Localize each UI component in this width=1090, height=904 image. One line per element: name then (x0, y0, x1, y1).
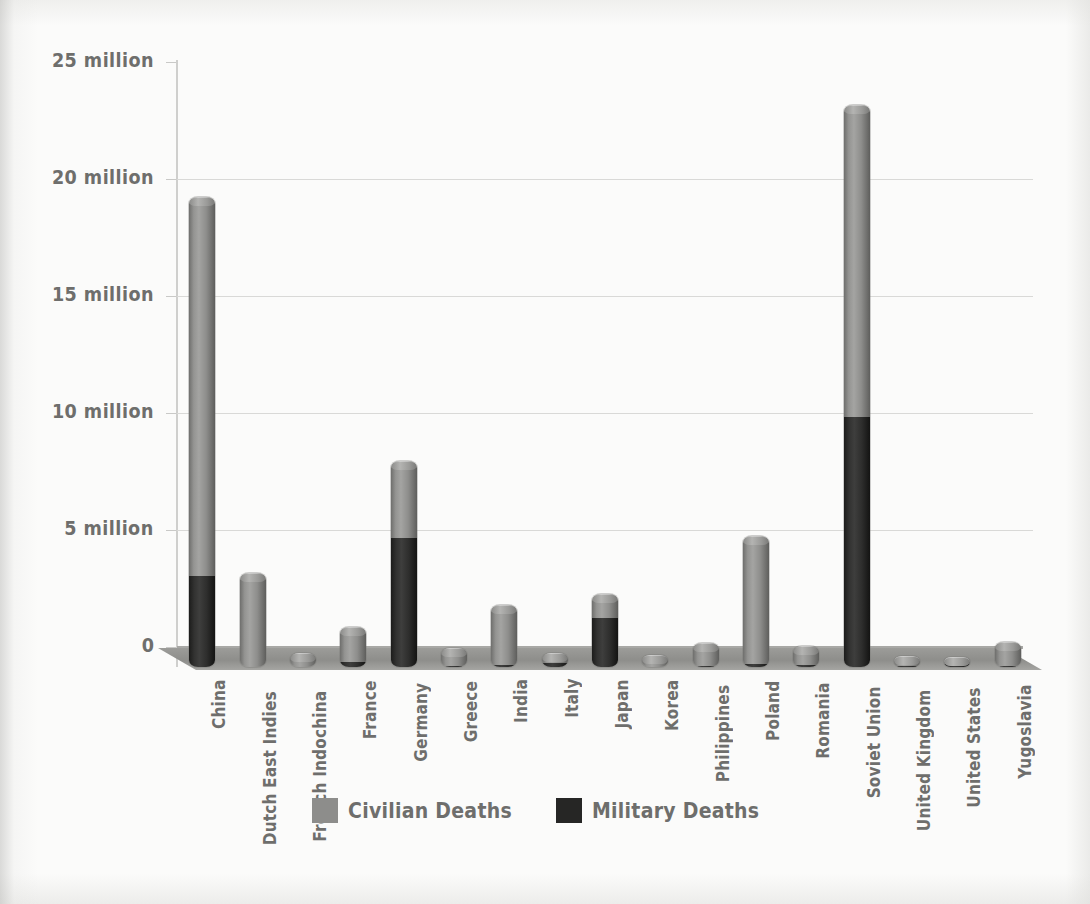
bar-top-cap (693, 643, 719, 652)
y-axis-tick-label: 0 (141, 633, 154, 657)
bar-column (542, 653, 568, 667)
bar-segment-civilian (240, 573, 266, 667)
x-axis-label-text: Greece (461, 681, 481, 742)
bar-segment-military (693, 666, 719, 667)
bar-column (240, 573, 266, 667)
legend-item[interactable]: Civilian Deaths (312, 798, 530, 823)
x-axis-label-text: Soviet Union (864, 686, 884, 798)
bar-top-cap (391, 461, 417, 470)
bar-segment-military (592, 618, 618, 667)
x-axis-label: Greece (461, 674, 481, 742)
x-axis-label: Japan (612, 674, 632, 729)
legend-swatch-civ (312, 798, 338, 823)
bar-top-cap (743, 536, 769, 545)
bar-top-cap (290, 653, 316, 662)
bar[interactable] (441, 648, 467, 667)
bar-segment-civilian (491, 605, 517, 665)
x-axis-label-text: France (360, 681, 380, 740)
bar[interactable] (693, 643, 719, 667)
x-axis-label-text: Yugoslavia (1015, 684, 1035, 778)
bar-segment-civilian (844, 105, 870, 416)
bar-column (391, 461, 417, 667)
chart-legend: Civilian DeathsMilitary Deaths (0, 798, 1090, 823)
x-axis-label: Italy (562, 674, 582, 718)
x-axis-label: India (511, 674, 531, 723)
y-axis-tick-label: 20 million (52, 165, 154, 189)
bar-column (743, 536, 769, 668)
bar-column (793, 646, 819, 667)
legend-item[interactable]: Military Deaths (556, 798, 778, 823)
x-axis-label: United States (964, 674, 984, 808)
bar-column (995, 642, 1021, 667)
bar-segment-military (340, 662, 366, 667)
x-axis-label: Romania (813, 674, 833, 759)
bar[interactable] (290, 653, 316, 667)
bar[interactable] (391, 461, 417, 667)
bar-segment-military (743, 664, 769, 667)
bar[interactable] (894, 656, 920, 667)
x-axis-label: Yugoslavia (1015, 674, 1035, 779)
y-axis-tick-label: 15 million (52, 282, 154, 306)
bar-segment-military (189, 576, 215, 667)
bar-top-cap (844, 105, 870, 114)
bar-top-cap (944, 657, 970, 666)
bar[interactable] (491, 605, 517, 667)
bar-segment-civilian (189, 197, 215, 576)
bar-column (894, 656, 920, 667)
bar-segment-civilian (391, 461, 417, 538)
bar[interactable] (944, 657, 970, 667)
bar[interactable] (340, 627, 366, 667)
bar[interactable] (844, 105, 870, 667)
bar-top-cap (642, 655, 668, 664)
bar-top-cap (441, 648, 467, 657)
bar-column (693, 643, 719, 667)
bar-column (189, 197, 215, 667)
bar-column (491, 605, 517, 667)
bar[interactable] (240, 573, 266, 667)
bar-top-cap (995, 642, 1021, 651)
chart-page: 25 million20 million15 million10 million… (0, 0, 1090, 904)
x-axis-label-text: Japan (612, 679, 632, 728)
x-axis-label-text: Korea (662, 680, 682, 731)
legend-label: Military Deaths (592, 799, 759, 823)
bar-segment-military (542, 663, 568, 667)
x-axis-label: Korea (662, 674, 682, 731)
bar-top-cap (793, 646, 819, 655)
x-axis-label-text: United States (964, 687, 984, 807)
bar-column (844, 105, 870, 667)
bar-group (177, 62, 1033, 665)
bar-top-cap (240, 573, 266, 582)
bar-top-cap (491, 605, 517, 614)
x-axis-label: France (360, 674, 380, 739)
x-axis-label-text: Italy (562, 678, 582, 717)
bar-top-cap (189, 197, 215, 206)
x-axis-label-text: Philippines (713, 685, 733, 782)
x-axis-label: China (209, 674, 229, 729)
y-axis: 25 million20 million15 million10 million… (0, 0, 166, 904)
bar-column (592, 594, 618, 667)
y-axis-tick-label: 5 million (65, 516, 154, 540)
bar-segment-civilian (743, 536, 769, 665)
bar-column (441, 648, 467, 667)
bar[interactable] (793, 646, 819, 667)
bar-segment-military (391, 538, 417, 667)
x-axis-label: Soviet Union (864, 674, 884, 798)
x-axis-label: Philippines (713, 674, 733, 782)
bar[interactable] (189, 197, 215, 667)
bar-column (642, 655, 668, 667)
x-axis-label-text: Romania (813, 682, 833, 758)
bar[interactable] (642, 655, 668, 667)
bar-column (290, 653, 316, 667)
bar[interactable] (743, 536, 769, 668)
bar[interactable] (995, 642, 1021, 667)
bar-segment-military (995, 666, 1021, 667)
bar[interactable] (592, 594, 618, 667)
bar-column (944, 657, 970, 667)
x-axis-label: Germany (411, 674, 431, 762)
bar-segment-military (441, 666, 467, 667)
x-axis-label: Poland (763, 674, 783, 741)
x-axis-label-text: Poland (763, 681, 783, 741)
legend-label: Civilian Deaths (348, 799, 512, 823)
bar[interactable] (542, 653, 568, 667)
bar-top-cap (592, 594, 618, 603)
